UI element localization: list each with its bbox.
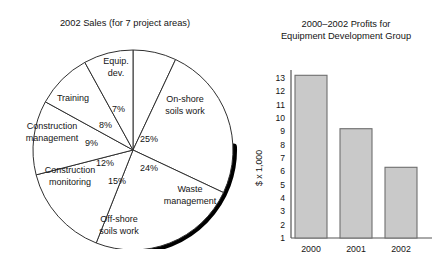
pie-label-onshore-soils-work: On-shore soils work <box>148 94 222 117</box>
bar-chart-graphic: $ x 1,000 1 2 3 4 5 6 7 8 9 10 11 12 13 <box>250 48 437 263</box>
bar-chart-bars <box>295 75 417 238</box>
bar-2002[interactable] <box>385 167 417 238</box>
y-tick-12: 12 <box>275 86 285 96</box>
pie-label-equip-dev-line1: Equip. <box>103 56 129 66</box>
pie-label-constr-mgmt-line2: management <box>26 133 79 143</box>
bar-2001[interactable] <box>340 129 372 238</box>
pie-percent-waste: 24% <box>140 163 158 174</box>
y-tick-3: 3 <box>280 206 285 216</box>
bar-chart-title: 2000–2002 Profits for Equipment Developm… <box>258 18 434 42</box>
bar-chart-y-ticks: 1 2 3 4 5 6 7 8 9 10 11 12 13 <box>275 73 285 243</box>
pie-percent-constr-mgmt: 9% <box>85 138 98 149</box>
pie-label-constr-mon-line1: Construction <box>45 165 96 175</box>
bar-chart-figure: 2000–2002 Profits for Equipment Developm… <box>250 0 437 279</box>
pie-label-offshore-line1: Off-shore <box>100 214 137 224</box>
y-tick-7: 7 <box>280 153 285 163</box>
bar-2000[interactable] <box>295 75 327 238</box>
pie-label-constr-mon-line2: monitoring <box>49 177 91 187</box>
y-tick-1: 1 <box>280 233 285 243</box>
y-tick-5: 5 <box>280 180 285 190</box>
pie-percent-constr-mon: 12% <box>96 158 114 169</box>
y-tick-9: 9 <box>280 126 285 136</box>
pie-label-waste-management: Waste management <box>150 184 230 207</box>
bar-chart-title-line1: 2000–2002 Profits for <box>302 19 391 29</box>
bar-chart-x-ticks: 2000 2001 2002 <box>301 244 411 254</box>
pie-chart-title: 2002 Sales (for 7 project areas) <box>0 17 250 29</box>
bar-chart-title-line2: Equipment Development Group <box>281 31 411 41</box>
pie-chart-figure: 2002 Sales (for 7 project areas) Equip. … <box>0 0 250 279</box>
y-tick-10: 10 <box>275 113 285 123</box>
y-tick-6: 6 <box>280 166 285 176</box>
y-tick-11: 11 <box>276 100 285 110</box>
pie-percent-training: 8% <box>99 120 112 131</box>
y-tick-2: 2 <box>280 220 285 230</box>
pie-percent-onshore: 25% <box>140 134 158 145</box>
pie-label-training: Training <box>44 93 102 105</box>
pie-label-offshore-line2: soils work <box>99 226 139 236</box>
y-tick-4: 4 <box>280 193 285 203</box>
y-tick-8: 8 <box>280 140 285 150</box>
pie-label-offshore-soils-work: Off-shore soils work <box>83 214 155 237</box>
pie-label-constr-mgmt-line1: Construction <box>27 121 78 131</box>
pie-label-equip-dev: Equip. dev. <box>94 56 138 79</box>
x-tick-2001: 2001 <box>346 244 366 254</box>
pie-label-equip-dev-line2: dev. <box>108 68 124 78</box>
pie-label-waste-line1: Waste <box>177 184 202 194</box>
pie-percent-equip-dev: 7% <box>112 104 125 115</box>
pie-label-onshore-line1: On-shore <box>166 94 204 104</box>
pie-label-onshore-line2: soils work <box>165 106 205 116</box>
pie-label-waste-line2: management <box>164 196 217 206</box>
x-tick-2002: 2002 <box>391 244 411 254</box>
y-tick-13: 13 <box>275 73 285 83</box>
bar-chart-y-axis-title: $ x 1,000 <box>254 150 264 186</box>
x-tick-2000: 2000 <box>301 244 321 254</box>
pie-percent-offshore: 15% <box>108 176 126 187</box>
